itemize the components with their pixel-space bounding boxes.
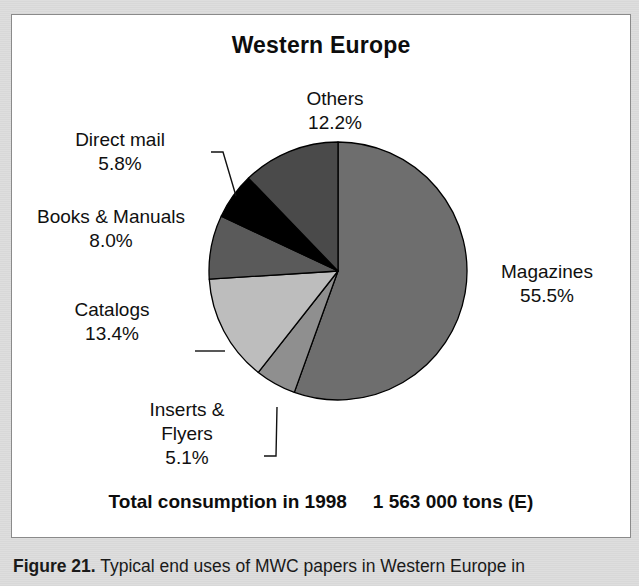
- figure-caption-number: Figure 21.: [13, 556, 96, 576]
- slice-label-magazines-name: Magazines: [501, 261, 593, 282]
- total-consumption-value: 1 563 000 tons (E): [373, 491, 534, 512]
- slice-label-others-pct: 12.2%: [255, 111, 415, 135]
- slice-label-catalogs-pct: 13.4%: [32, 322, 192, 346]
- figure-panel: Western Europe Others 12.2% Direct mail …: [11, 14, 631, 538]
- slice-label-inserts-flyers: Inserts & Flyers 5.1%: [112, 398, 262, 470]
- figure-caption-text: Typical end uses of MWC papers in Wester…: [100, 556, 525, 576]
- slice-label-magazines: Magazines 55.5%: [462, 260, 632, 308]
- slice-label-inserts-flyers-name-1: Inserts &: [150, 399, 225, 420]
- slice-label-direct-mail-name: Direct mail: [75, 129, 165, 150]
- figure-caption: Figure 21. Typical end uses of MWC paper…: [13, 556, 627, 577]
- leader-line-direct-mail: [211, 152, 236, 196]
- slice-label-inserts-flyers-pct: 5.1%: [112, 446, 262, 470]
- slice-label-magazines-pct: 55.5%: [462, 284, 632, 308]
- pie-slices: [209, 142, 467, 400]
- slice-label-direct-mail-pct: 5.8%: [30, 152, 210, 176]
- slice-label-books-manuals: Books & Manuals 8.0%: [12, 205, 210, 253]
- slice-label-books-manuals-name: Books & Manuals: [37, 206, 185, 227]
- slice-label-inserts-flyers-name-2: Flyers: [112, 422, 262, 446]
- slice-label-catalogs: Catalogs 13.4%: [32, 298, 192, 346]
- total-consumption-line: Total consumption in 19981 563 000 tons …: [12, 491, 630, 513]
- slice-label-books-manuals-pct: 8.0%: [12, 229, 210, 253]
- slice-label-others-name: Others: [306, 88, 363, 109]
- leader-line-inserts-flyers: [264, 407, 277, 456]
- total-consumption-label: Total consumption in 1998: [109, 491, 347, 512]
- slice-label-catalogs-name: Catalogs: [75, 299, 150, 320]
- slice-label-direct-mail: Direct mail 5.8%: [30, 128, 210, 176]
- slice-label-others: Others 12.2%: [255, 87, 415, 135]
- page-background: Western Europe Others 12.2% Direct mail …: [0, 0, 639, 586]
